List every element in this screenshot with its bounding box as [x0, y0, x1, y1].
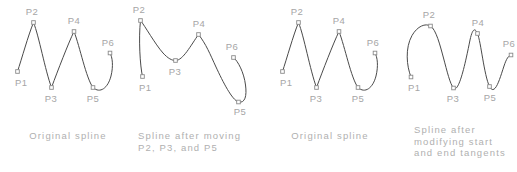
control-point-marker-p6[interactable] [373, 51, 377, 55]
control-point-marker-p2[interactable] [429, 24, 433, 28]
control-point-marker-p3[interactable] [315, 86, 319, 90]
control-point-label-p3: P3 [310, 93, 322, 104]
control-point-marker-p1[interactable] [141, 75, 145, 79]
control-point-label-p2: P2 [133, 4, 145, 15]
control-point-label-p1: P1 [280, 77, 292, 88]
control-point-label-p4: P4 [68, 15, 80, 26]
control-point-label-p5: P5 [87, 93, 99, 104]
panel-caption-line: Original spline [29, 130, 106, 141]
spline-figure-canvas: P1P2P3P4P5P6Original splineP1P2P3P4P5P6S… [0, 0, 517, 172]
control-point-marker-p4[interactable] [337, 30, 341, 34]
control-point-label-p5: P5 [352, 93, 364, 104]
control-point-marker-p3[interactable] [174, 59, 178, 63]
spline-figure: P1P2P3P4P5P6Original splineP1P2P3P4P5P6S… [0, 0, 517, 172]
control-point-label-p5: P5 [234, 106, 246, 117]
control-point-label-p1: P1 [408, 82, 420, 93]
control-point-marker-p2[interactable] [139, 19, 143, 23]
spline-curve[interactable] [140, 21, 246, 103]
panel-caption-line: and end tangents [414, 147, 506, 158]
control-point-label-p3: P3 [45, 93, 57, 104]
control-point-marker-p1[interactable] [409, 75, 413, 79]
control-point-marker-p4[interactable] [197, 33, 201, 37]
panels-root: P1P2P3P4P5P6Original splineP1P2P3P4P5P6S… [15, 4, 515, 158]
control-point-marker-p5[interactable] [237, 100, 241, 104]
control-point-marker-p3[interactable] [452, 86, 456, 90]
control-point-label-p2: P2 [291, 6, 303, 17]
control-point-label-p4: P4 [472, 17, 484, 28]
control-point-label-p6: P6 [102, 37, 114, 48]
control-point-marker-p4[interactable] [72, 30, 76, 34]
panel-original-spline-left: P1P2P3P4P5P6Original spline [15, 6, 114, 141]
control-point-label-p6: P6 [367, 37, 379, 48]
panel-original-spline-right: P1P2P3P4P5P6Original spline [280, 6, 379, 141]
spline-curve[interactable] [407, 25, 511, 90]
control-point-label-p2: P2 [26, 6, 38, 17]
panel-caption-line: Original spline [291, 130, 368, 141]
control-point-marker-p4[interactable] [476, 32, 480, 36]
control-point-label-p4: P4 [333, 15, 345, 26]
control-point-label-p6: P6 [226, 41, 238, 52]
control-point-marker-p5[interactable] [91, 86, 95, 90]
control-point-marker-p5[interactable] [356, 86, 360, 90]
control-point-marker-p6[interactable] [108, 51, 112, 55]
control-point-label-p1: P1 [139, 82, 151, 93]
panel-caption-line: modifying start [414, 136, 493, 147]
control-point-label-p2: P2 [423, 9, 435, 20]
panel-spline-after-moving: P1P2P3P4P5P6Spline after movingP2, P3, a… [133, 4, 246, 153]
control-point-label-p1: P1 [15, 77, 27, 88]
panel-caption-line: Spline after [414, 124, 476, 135]
control-point-marker-p1[interactable] [16, 70, 20, 74]
control-point-label-p3: P3 [169, 66, 181, 77]
panel-caption-line: P2, P3, and P5 [138, 142, 218, 153]
control-point-label-p6: P6 [503, 38, 515, 49]
control-point-marker-p1[interactable] [281, 70, 285, 74]
panel-caption-line: Spline after moving [138, 130, 241, 141]
control-point-label-p4: P4 [193, 18, 205, 29]
control-point-marker-p2[interactable] [32, 21, 36, 25]
control-point-marker-p6[interactable] [232, 56, 236, 60]
control-point-label-p5: P5 [484, 92, 496, 103]
spline-curve[interactable] [283, 23, 378, 91]
spline-curve[interactable] [18, 23, 113, 91]
panel-spline-modified-tangents: P1P2P3P4P5P6Spline aftermodifying starta… [407, 9, 515, 158]
control-point-marker-p5[interactable] [488, 85, 492, 89]
control-point-marker-p3[interactable] [50, 86, 54, 90]
control-point-marker-p2[interactable] [297, 21, 301, 25]
control-point-label-p3: P3 [447, 93, 459, 104]
control-point-marker-p6[interactable] [509, 53, 513, 57]
